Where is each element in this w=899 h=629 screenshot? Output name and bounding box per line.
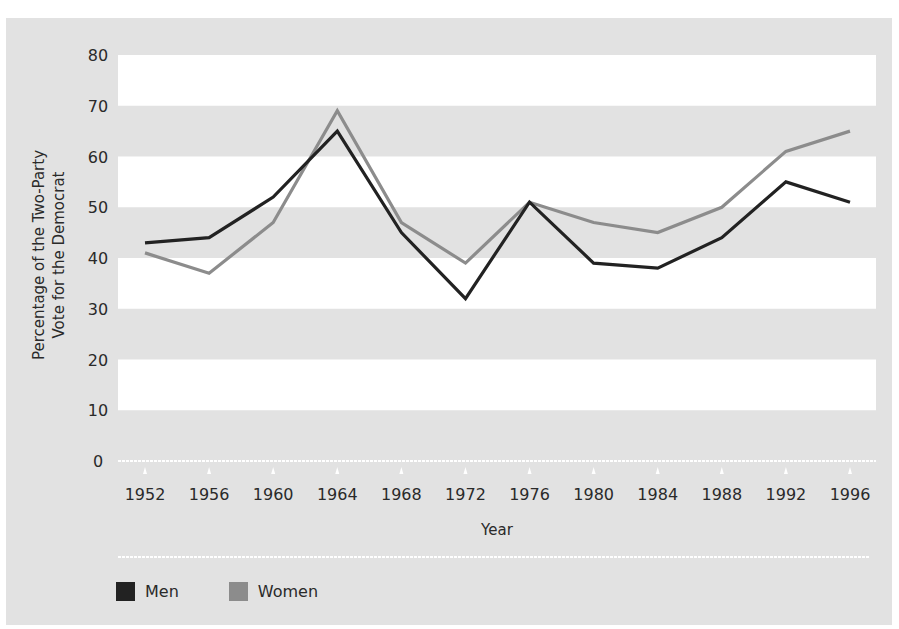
- x-tick-label: 1972: [445, 485, 486, 504]
- women-swatch-icon: [229, 582, 248, 601]
- grid-band: [118, 360, 876, 411]
- x-tick-mark: [335, 467, 339, 474]
- x-axis-label: Year: [480, 521, 514, 539]
- x-tick-label: 1960: [253, 485, 294, 504]
- legend-item-women: Women: [229, 582, 318, 601]
- grid-band: [118, 55, 876, 106]
- svg-text:Percentage of the Two-Party: Percentage of the Two-Party: [30, 150, 48, 360]
- y-tick-label: 20: [88, 351, 108, 370]
- x-tick-label: 1980: [573, 485, 614, 504]
- x-tick-mark: [463, 467, 467, 474]
- legend: Men Women: [116, 582, 368, 601]
- y-tick-label: 50: [88, 198, 108, 217]
- men-swatch-icon: [116, 582, 135, 601]
- x-tick-mark: [271, 467, 275, 474]
- x-tick-label: 1984: [637, 485, 678, 504]
- y-tick-label: 70: [88, 97, 108, 116]
- y-tick-label: 10: [88, 401, 108, 420]
- x-axis-ticks: 1952195619601964196819721976198019841988…: [125, 467, 871, 504]
- x-tick-mark: [848, 467, 852, 474]
- y-tick-label: 40: [88, 249, 108, 268]
- x-tick-label: 1992: [766, 485, 807, 504]
- x-tick-mark: [656, 467, 660, 474]
- x-tick-label: 1976: [509, 485, 550, 504]
- x-tick-label: 1952: [125, 485, 166, 504]
- svg-text:Vote for the Democrat: Vote for the Democrat: [50, 171, 68, 338]
- grid-band: [118, 157, 876, 208]
- x-tick-mark: [528, 467, 532, 474]
- x-tick-label: 1956: [189, 485, 230, 504]
- legend-item-men: Men: [116, 582, 179, 601]
- x-tick-label: 1964: [317, 485, 358, 504]
- y-tick-label: 80: [88, 46, 108, 65]
- x-tick-mark: [784, 467, 788, 474]
- grid-band: [118, 258, 876, 309]
- x-tick-mark: [399, 467, 403, 474]
- y-tick-label: 60: [88, 148, 108, 167]
- x-tick-mark: [592, 467, 596, 474]
- legend-label-men: Men: [145, 582, 179, 601]
- y-axis-label: Percentage of the Two-Party Vote for the…: [30, 150, 68, 360]
- y-tick-label: 0: [93, 452, 103, 471]
- line-chart: 01020304050607080 1952195619601964196819…: [0, 0, 899, 629]
- x-tick-label: 1996: [830, 485, 871, 504]
- x-tick-mark: [720, 467, 724, 474]
- x-tick-label: 1968: [381, 485, 422, 504]
- y-axis-ticks: 01020304050607080: [88, 46, 108, 471]
- x-tick-mark: [143, 467, 147, 474]
- y-tick-label: 30: [88, 300, 108, 319]
- x-tick-label: 1988: [701, 485, 742, 504]
- legend-label-women: Women: [258, 582, 318, 601]
- x-tick-mark: [207, 467, 211, 474]
